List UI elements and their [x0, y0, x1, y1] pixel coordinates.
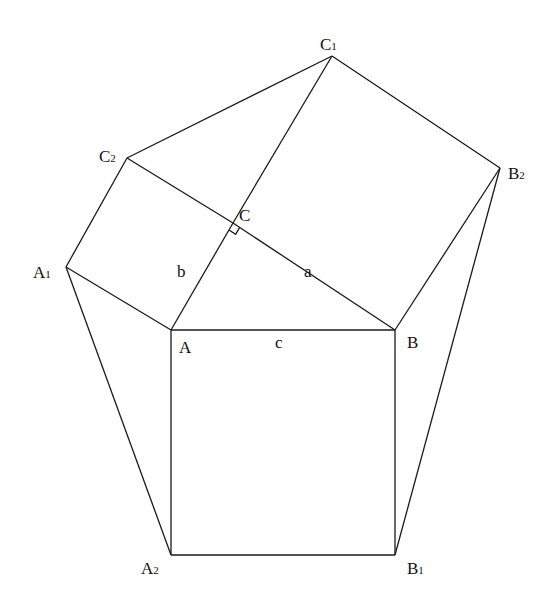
segment-A1-A	[66, 267, 171, 330]
label-B2: B2	[508, 164, 525, 183]
segment-C2-C	[127, 158, 233, 223]
segment-C2-A1	[66, 158, 127, 267]
segment-C-B	[233, 223, 395, 330]
label-A1: A1	[33, 263, 51, 282]
label-A2: A2	[141, 559, 159, 578]
segments-group	[66, 56, 500, 555]
pythagoras-diagram: C1 C2 B2 C A1 b a A c B A2 B1	[0, 0, 557, 606]
label-C: C	[239, 206, 250, 225]
label-B1: B1	[407, 559, 424, 578]
label-C1: C1	[320, 35, 337, 54]
label-a: a	[304, 262, 312, 281]
segment-B2-B	[395, 168, 500, 330]
label-b: b	[177, 262, 186, 281]
segment-A1-A2	[66, 267, 171, 555]
label-A: A	[179, 338, 192, 357]
segment-C1-B2	[332, 56, 500, 168]
label-c: c	[275, 333, 283, 352]
label-B: B	[407, 333, 418, 352]
segment-B2-B1	[395, 168, 500, 555]
label-C2: C2	[99, 147, 116, 166]
